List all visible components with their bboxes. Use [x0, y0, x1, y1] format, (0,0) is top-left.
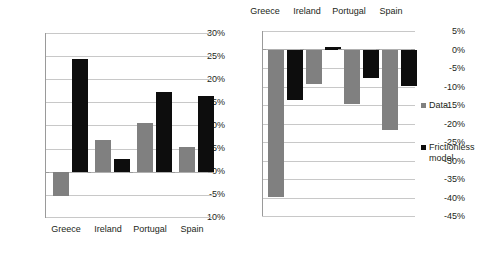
bar-data-ireland — [306, 50, 322, 84]
left-xtick-greece: Greece — [45, 224, 87, 234]
right-xtick-spain: Spain — [370, 6, 412, 16]
gridline — [45, 56, 212, 57]
gridline — [262, 161, 415, 162]
bar-data-ireland — [95, 140, 111, 172]
bar-data-portugal — [344, 50, 360, 104]
right-xtick-portugal: Portugal — [328, 6, 370, 16]
right-ytick-label: -10% — [433, 83, 465, 92]
bar-model-greece — [287, 50, 303, 100]
left-plot-area — [45, 33, 212, 218]
gridline — [45, 102, 212, 103]
gridline — [262, 216, 415, 217]
chart-right: Greece Ireland Portugal Spain 5% 0% -5% … — [225, 0, 465, 257]
bar-model-greece — [72, 59, 88, 172]
bar-data-portugal — [137, 123, 153, 172]
right-ytick-label: 0% — [433, 46, 465, 55]
right-xtick-ireland: Ireland — [286, 6, 328, 16]
xtick — [208, 172, 212, 173]
xtick — [300, 49, 304, 50]
xtick — [411, 49, 415, 50]
gridline — [45, 79, 212, 80]
right-ytick-label: 5% — [433, 27, 465, 36]
left-xtick-ireland: Ireland — [87, 224, 129, 234]
bar-model-ireland — [114, 159, 130, 172]
xtick — [87, 172, 91, 173]
right-ytick-label: -45% — [433, 212, 465, 221]
gridline — [45, 195, 212, 196]
bar-data-spain — [179, 147, 195, 172]
gridline — [45, 125, 212, 126]
gridline — [262, 31, 415, 32]
legend-label-data: Data — [429, 100, 448, 111]
gridline — [262, 142, 415, 143]
legend-item-data[interactable]: Data — [421, 100, 448, 111]
right-y-axis — [262, 31, 263, 216]
right-plot-area — [262, 31, 415, 216]
gridline — [45, 217, 212, 218]
right-ytick-label: -40% — [433, 194, 465, 203]
gridline — [45, 33, 212, 34]
right-ytick-label: -5% — [433, 64, 465, 73]
legend-swatch-model-icon — [421, 145, 426, 150]
legend-item-model[interactable]: Frictionless model — [421, 142, 475, 164]
gridline — [262, 198, 415, 199]
xtick — [171, 172, 175, 173]
legend: Data Frictionless model — [421, 100, 479, 180]
xtick — [262, 49, 266, 50]
xtick — [129, 172, 133, 173]
bar-model-spain — [401, 50, 417, 86]
chart-left: 30% 25% 20% 15% 10% 5% 0% -5% -10% — [0, 0, 225, 257]
bar-data-greece — [268, 50, 284, 197]
xtick — [376, 49, 380, 50]
gridline — [262, 179, 415, 180]
bar-model-spain — [198, 96, 214, 172]
xtick — [338, 49, 342, 50]
bar-model-portugal — [156, 92, 172, 172]
left-xtick-spain: Spain — [171, 224, 213, 234]
right-xtick-greece: Greece — [244, 6, 286, 16]
bar-model-portugal — [363, 50, 379, 78]
xtick — [45, 172, 49, 173]
legend-label-model: Frictionless model — [429, 142, 475, 164]
left-y-axis — [45, 33, 46, 218]
bar-data-spain — [382, 50, 398, 130]
bar-data-greece — [53, 172, 69, 196]
legend-swatch-data-icon — [421, 103, 426, 108]
left-xtick-portugal: Portugal — [129, 224, 171, 234]
